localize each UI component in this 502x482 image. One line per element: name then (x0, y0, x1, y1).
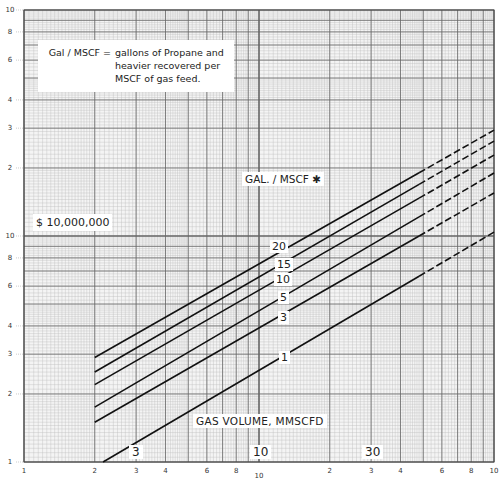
svg-text:6: 6 (205, 467, 210, 475)
svg-text:10: 10 (490, 467, 499, 475)
svg-text:3: 3 (8, 350, 12, 358)
line-label-10: 10 (274, 273, 292, 286)
svg-text:4: 4 (8, 322, 13, 330)
svg-text:4: 4 (398, 467, 403, 475)
line-label-15: 15 (275, 258, 293, 271)
series-legend-title: GAL. / MSCF ✱ (242, 172, 324, 186)
svg-text:8: 8 (8, 28, 12, 36)
svg-text:2: 2 (8, 390, 12, 398)
line-label-20: 20 (270, 240, 288, 253)
note-term: Gal / MSCF = (38, 46, 115, 85)
in-plot-x-label-3: 3 (129, 445, 143, 459)
svg-text:3: 3 (134, 467, 138, 475)
in-plot-x-label-30: 30 (362, 445, 383, 459)
svg-text:2: 2 (8, 164, 12, 172)
y-unit-label: $ 10,000,000 (33, 214, 112, 231)
svg-text:8: 8 (8, 254, 12, 262)
svg-text:1: 1 (8, 458, 12, 466)
svg-text:6: 6 (8, 56, 13, 64)
svg-text:3: 3 (369, 467, 373, 475)
x-axis-title: GAS VOLUME, MMSCFD (193, 414, 327, 428)
svg-text:3: 3 (8, 124, 12, 132)
svg-text:2: 2 (328, 467, 332, 475)
in-plot-x-label-10: 10 (250, 445, 271, 459)
svg-text:6: 6 (8, 282, 13, 290)
svg-text:4: 4 (163, 467, 168, 475)
line-label-5: 5 (278, 291, 289, 304)
svg-text:2: 2 (93, 467, 97, 475)
line-label-1: 1 (279, 351, 290, 364)
line-label-3: 3 (278, 311, 289, 324)
svg-text:6: 6 (440, 467, 445, 475)
svg-text:1: 1 (22, 467, 26, 475)
svg-text:10: 10 (6, 232, 15, 240)
svg-text:8: 8 (234, 467, 238, 475)
svg-text:4: 4 (8, 96, 13, 104)
svg-text:10: 10 (255, 472, 264, 480)
note-definition: gallons of Propane and heavier recovered… (115, 46, 234, 85)
svg-text:10: 10 (6, 6, 15, 14)
gal-mscf-definition-note: Gal / MSCF = gallons of Propane and heav… (38, 40, 234, 92)
svg-text:8: 8 (469, 467, 473, 475)
